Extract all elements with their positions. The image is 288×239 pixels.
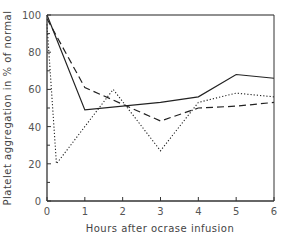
y-tick-label: 80 [28, 47, 41, 58]
y-tick-label: 100 [22, 10, 41, 21]
y-tick-label: 60 [28, 84, 41, 95]
y-tick-label: 0 [35, 196, 41, 207]
x-axis-title: Hours after ocrase infusion [86, 223, 235, 234]
y-tick-label: 40 [28, 122, 41, 133]
x-tick-label: 4 [195, 206, 201, 217]
y-axis-title: Platelet aggregation in % of normal [2, 10, 13, 205]
axes: 0204060801000123456 [22, 10, 277, 217]
x-tick-label: 6 [271, 206, 277, 217]
x-tick-label: 2 [119, 206, 125, 217]
x-tick-label: 1 [82, 206, 88, 217]
x-tick-label: 5 [233, 206, 239, 217]
series-dashed [47, 19, 274, 121]
y-tick-label: 20 [28, 159, 41, 170]
x-tick-label: 0 [44, 206, 50, 217]
series-solid [47, 15, 274, 110]
plot-area [47, 15, 274, 164]
line-chart: 0204060801000123456 Hours after ocrase i… [0, 0, 288, 239]
x-tick-label: 3 [157, 206, 163, 217]
series-dotted [47, 24, 274, 164]
